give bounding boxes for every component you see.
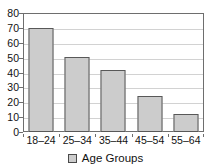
legend-swatch-icon [68,154,77,163]
legend-label: Age Groups [82,152,143,164]
y-axis: 01020304050607080 [0,13,19,132]
y-tick-label: 60 [0,38,19,49]
bar-slot [132,13,168,132]
bar[interactable] [137,96,162,132]
x-tick-mark [203,134,204,137]
chart-title [0,0,211,5]
x-tick-label: 18–24 [23,134,59,146]
bar[interactable] [29,28,54,132]
bar-slot [23,13,59,132]
y-tick-label: 40 [0,68,19,79]
x-tick-label: 35–44 [95,134,131,146]
chart-legend: Age Groups [0,150,211,166]
x-axis: 18–2425–3435–4445–5455–64 [23,134,204,148]
x-tick-mark [59,134,60,137]
y-tick-label: 10 [0,112,19,123]
y-tick-label: 80 [0,8,19,19]
y-tick-mark [19,132,23,133]
x-tick-mark [168,134,169,137]
bar[interactable] [101,70,126,132]
x-tick-label: 55–64 [168,134,204,146]
y-tick-label: 50 [0,53,19,64]
y-tick-label: 0 [0,127,19,138]
bar[interactable] [173,114,198,132]
x-tick-mark [23,134,24,137]
x-tick-label: 45–54 [132,134,168,146]
y-tick-label: 70 [0,23,19,34]
bar-slot [168,13,204,132]
y-tick-label: 20 [0,97,19,108]
y-tick-label: 30 [0,82,19,93]
bar[interactable] [65,57,90,132]
bar-slot [95,13,131,132]
x-tick-label: 25–34 [59,134,95,146]
x-tick-mark [95,134,96,137]
bar-chart-figure: 01020304050607080 18–2425–3435–4445–5455… [0,0,211,168]
bar-slot [59,13,95,132]
bars-layer [23,13,204,132]
x-tick-mark [132,134,133,137]
